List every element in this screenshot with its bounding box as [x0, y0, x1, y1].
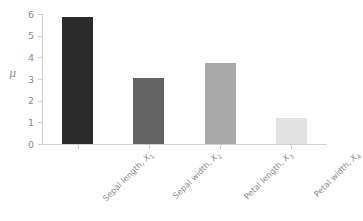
y-tick-label: 6 [28, 10, 34, 20]
x-tick-label: Petal width, X4 [313, 150, 363, 200]
x-tick-label: Sepal width, X2 [171, 150, 223, 202]
y-tick-label: 5 [28, 31, 34, 41]
y-tick: 4 [38, 57, 42, 58]
y-tick: 1 [38, 122, 42, 123]
y-tick: 3 [38, 79, 42, 80]
y-axis-line [42, 14, 43, 145]
y-tick: 5 [38, 36, 42, 37]
y-tick-label: 4 [28, 53, 34, 63]
bar [276, 118, 307, 144]
y-tick-label: 0 [28, 140, 34, 150]
y-tick: 2 [38, 101, 42, 102]
x-tick [78, 145, 79, 149]
y-tick: 0 [38, 144, 42, 145]
bar [133, 78, 164, 144]
x-axis-line [42, 144, 327, 145]
x-tick [220, 145, 221, 149]
y-axis-title: μ [9, 68, 16, 79]
y-tick-label: 1 [28, 118, 34, 128]
y-tick-label: 3 [28, 75, 34, 85]
bar [205, 63, 236, 144]
bar [62, 17, 93, 144]
y-tick-label: 2 [28, 96, 34, 106]
plot-area: 0123456 [42, 14, 327, 145]
x-tick [291, 145, 292, 149]
x-tick-label: Sepal length, X1 [101, 150, 155, 204]
x-tick [149, 145, 150, 149]
y-tick: 6 [38, 14, 42, 15]
x-tick-label: Petal length, X3 [243, 150, 296, 203]
